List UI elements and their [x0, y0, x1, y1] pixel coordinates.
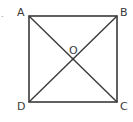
vertex-label-c: C — [120, 100, 128, 113]
center-label-o: O — [69, 44, 78, 57]
prefix-mark: . — [1, 10, 4, 19]
vertex-label-b: B — [120, 6, 128, 19]
square-diagram: . A B C D O — [0, 0, 133, 122]
vertex-label-a: A — [17, 6, 25, 19]
vertex-label-d: D — [17, 100, 25, 113]
center-point — [72, 58, 75, 61]
